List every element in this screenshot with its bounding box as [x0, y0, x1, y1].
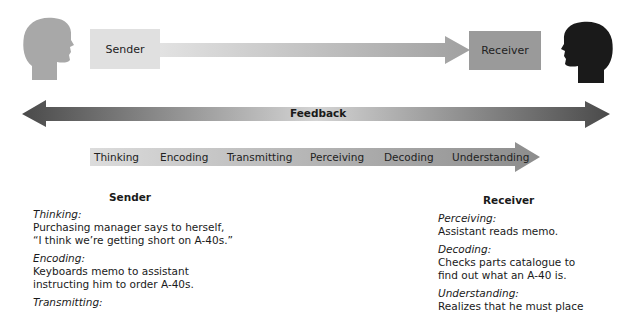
sender-column: Thinking: Purchasing manager says to her… [33, 208, 233, 314]
item-line: Keyboards memo to assistant [33, 265, 233, 278]
stage-decoding: Decoding [384, 151, 434, 163]
item-line: Purchasing manager says to herself, [33, 221, 233, 234]
stage-perceiving: Perceiving [310, 151, 364, 163]
sender-item-transmitting: Transmitting: [33, 296, 233, 309]
item-heading: Transmitting: [33, 296, 233, 309]
item-line: Checks parts catalogue to [438, 256, 584, 269]
feedback-label: Feedback [290, 107, 346, 119]
item-line: instructing him to order A-40s. [33, 278, 233, 291]
item-line: find out what an A-40 is. [438, 269, 584, 282]
receiver-box: Receiver [469, 31, 541, 70]
receiver-item-decoding: Decoding: Checks parts catalogue to find… [438, 243, 584, 282]
item-heading: Understanding: [438, 287, 584, 300]
receiver-column-title: Receiver [483, 194, 534, 206]
sender-box: Sender [90, 29, 160, 69]
receiver-item-perceiving: Perceiving: Assistant reads memo. [438, 212, 584, 238]
sender-item-encoding: Encoding: Keyboards memo to assistant in… [33, 252, 233, 291]
item-line: Assistant reads memo. [438, 225, 584, 238]
receiver-item-understanding: Understanding: Realizes that he must pla… [438, 287, 584, 313]
item-heading: Decoding: [438, 243, 584, 256]
stage-understanding: Understanding [452, 151, 529, 163]
stage-encoding: Encoding [160, 151, 208, 163]
item-heading: Perceiving: [438, 212, 584, 225]
sender-item-thinking: Thinking: Purchasing manager says to her… [33, 208, 233, 247]
message-arrow [160, 36, 470, 64]
item-heading: Thinking: [33, 208, 233, 221]
item-line: “I think we’re getting short on A-40s.” [33, 234, 233, 247]
stage-transmitting: Transmitting [227, 151, 292, 163]
receiver-box-label: Receiver [481, 44, 529, 57]
sender-head-icon [23, 18, 74, 80]
item-heading: Encoding: [33, 252, 233, 265]
receiver-head-icon [561, 22, 613, 83]
item-line: Realizes that he must place [438, 300, 584, 313]
sender-box-label: Sender [106, 43, 145, 56]
stage-thinking: Thinking [94, 151, 139, 163]
receiver-column: Perceiving: Assistant reads memo. Decodi… [438, 212, 584, 316]
sender-column-title: Sender [109, 191, 151, 203]
